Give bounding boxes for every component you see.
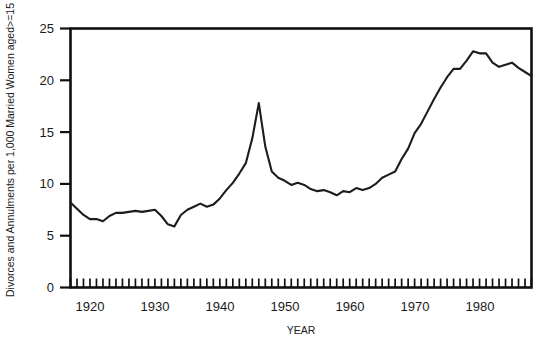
y-tick-label-5: 5 xyxy=(47,228,54,243)
x-tick-label-1970: 1970 xyxy=(401,299,430,314)
x-tick-label-1960: 1960 xyxy=(336,299,365,314)
y-tick-label-0: 0 xyxy=(47,280,54,295)
data-series-line xyxy=(71,51,532,226)
y-tick-label-20: 20 xyxy=(40,73,54,88)
x-tick-label-1930: 1930 xyxy=(141,299,170,314)
x-tick-label-1980: 1980 xyxy=(466,299,495,314)
y-tick-label-25: 25 xyxy=(40,21,54,36)
x-tick-labels: 1920 1930 1940 1950 1960 1970 1980 xyxy=(76,299,495,314)
chart-figure: Divorces and Annulments per 1,000 Marrie… xyxy=(0,0,560,351)
x-tick-label-1950: 1950 xyxy=(271,299,300,314)
y-tickmarks xyxy=(60,29,71,288)
y-tick-labels: 25 20 15 10 5 0 xyxy=(40,21,54,295)
x-tick-label-1940: 1940 xyxy=(206,299,235,314)
y-tick-label-15: 15 xyxy=(40,125,54,140)
line-chart: Divorces and Annulments per 1,000 Marrie… xyxy=(0,0,560,351)
x-axis-title: YEAR xyxy=(287,324,316,336)
x-tickmarks xyxy=(71,279,532,288)
y-tick-label-10: 10 xyxy=(40,176,54,191)
y-axis-title: Divorces and Annulments per 1,000 Marrie… xyxy=(4,3,16,297)
x-tick-label-1920: 1920 xyxy=(76,299,105,314)
